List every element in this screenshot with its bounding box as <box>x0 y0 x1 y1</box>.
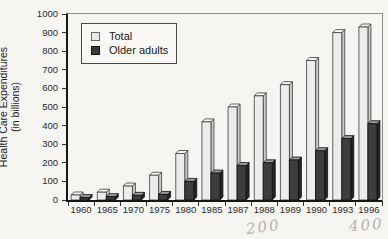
bar-older-adults-1996-side <box>377 121 380 200</box>
y-tick-label: 400 <box>28 121 58 131</box>
y-tick-label: 100 <box>28 176 58 186</box>
y-tick-mark <box>62 51 66 52</box>
x-tick-label: 1980 <box>172 205 200 215</box>
y-tick-label: 600 <box>28 83 58 93</box>
y-tick-mark <box>62 162 66 163</box>
bar-older-adults-1996-front <box>368 124 377 200</box>
bar-total-1993-front <box>333 33 342 200</box>
x-tick-label: 1987 <box>224 205 252 215</box>
handwritten-note-200: 200 <box>245 216 282 239</box>
legend-label-total: Total <box>109 31 132 42</box>
bar-older-adults-1987-side <box>246 163 249 200</box>
y-tick-mark <box>62 181 66 182</box>
x-tick-label: 1989 <box>276 205 304 215</box>
bar-total-1980-front <box>176 154 185 201</box>
y-tick-mark <box>62 144 66 145</box>
bar-total-1985-front <box>202 122 211 200</box>
bar-older-adults-1987-front <box>237 166 246 200</box>
bar-older-adults-1965-front <box>106 197 115 200</box>
y-tick-mark <box>62 107 66 108</box>
health-expenditures-figure: Health Care Expenditures (in billions) T… <box>0 0 388 239</box>
x-tick-label: 1970 <box>119 205 147 215</box>
x-tick-label: 1988 <box>250 205 278 215</box>
bar-total-1990-front <box>307 61 316 201</box>
bar-older-adults-1980-side <box>194 178 197 200</box>
legend-label-older-adults: Older adults <box>109 45 168 56</box>
x-tick-label: 1975 <box>146 205 174 215</box>
y-tick-label: 500 <box>28 102 58 112</box>
y-tick-label: 300 <box>28 139 58 149</box>
y-tick-label: 800 <box>28 46 58 56</box>
y-tick-mark <box>62 69 66 70</box>
y-tick-mark <box>62 32 66 33</box>
y-tick-mark <box>62 200 66 201</box>
bar-total-1970-front <box>123 186 132 200</box>
bar-total-1960-front <box>71 195 80 200</box>
y-tick-label: 900 <box>28 28 58 38</box>
y-axis-title-line2: (in billions) <box>9 7 21 207</box>
bar-total-1987-front <box>228 107 237 200</box>
y-tick-mark <box>62 88 66 89</box>
x-tick-label: 1993 <box>329 205 357 215</box>
y-tick-label: 0 <box>28 195 58 205</box>
y-tick-label: 1000 <box>28 9 58 19</box>
x-tick-label: 1985 <box>198 205 226 215</box>
bar-older-adults-1960-front <box>80 198 89 200</box>
bar-older-adults-1988-side <box>272 160 275 200</box>
legend: Total Older adults <box>81 23 177 64</box>
legend-item-older-adults: Older adults <box>91 45 176 56</box>
bar-older-adults-1993-side <box>351 136 354 200</box>
legend-item-total: Total <box>91 31 176 42</box>
bar-total-1996-front <box>359 27 368 200</box>
y-tick-label: 200 <box>28 158 58 168</box>
y-tick-mark <box>62 14 66 15</box>
bar-older-adults-1980-front <box>185 181 194 200</box>
total-swatch-icon <box>91 32 100 41</box>
x-tick-label: 1960 <box>67 205 95 215</box>
handwritten-note-400: 400 <box>348 215 384 236</box>
y-tick-mark <box>62 125 66 126</box>
bar-older-adults-1985-side <box>220 170 223 200</box>
bar-older-adults-1988-front <box>263 163 272 200</box>
older-adults-swatch-icon <box>91 46 100 55</box>
bar-older-adults-1985-front <box>211 173 220 200</box>
x-tick-label: 1996 <box>355 205 383 215</box>
x-tick-label: 1965 <box>93 205 121 215</box>
bar-older-adults-1990-side <box>325 148 328 200</box>
bar-older-adults-1989-side <box>298 157 301 200</box>
bar-total-1965-front <box>97 192 106 200</box>
x-tick-label: 1990 <box>303 205 331 215</box>
bar-total-1975-front <box>150 175 159 200</box>
bar-older-adults-1975-front <box>159 194 168 200</box>
y-axis-title-line1: Health Care Expenditures <box>0 7 9 207</box>
bar-total-1989-front <box>280 85 289 200</box>
bar-older-adults-1989-front <box>289 160 298 200</box>
bar-older-adults-1970-front <box>132 195 141 200</box>
bar-older-adults-1993-front <box>342 139 351 200</box>
bar-older-adults-1990-front <box>316 151 325 200</box>
bar-total-1988-front <box>254 96 263 200</box>
y-tick-label: 700 <box>28 65 58 75</box>
